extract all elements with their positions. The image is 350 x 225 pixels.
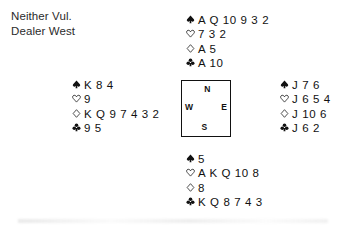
hand-south-diamonds: 8 [198, 181, 205, 196]
hand-north-hearts-row: 7 3 2 [186, 26, 269, 41]
hand-south-spades: 5 [198, 152, 205, 167]
club-icon [280, 120, 292, 133]
heart-icon [72, 91, 84, 104]
spade-icon [186, 150, 198, 163]
hand-east-clubs-row: J 6 2 [280, 120, 331, 135]
spade-icon [186, 11, 198, 24]
heart-icon [186, 165, 198, 178]
hand-north-diamonds-row: A 5 [186, 40, 269, 55]
hand-north: A Q 10 9 3 2 7 3 2 A 5 A 10 [186, 11, 269, 69]
dealer-text: Dealer West [11, 24, 75, 39]
hand-south-clubs: K Q 8 7 4 3 [198, 195, 263, 210]
hand-north-spades-row: A Q 10 9 3 2 [186, 11, 269, 26]
hand-west-diamonds-row: K Q 9 7 4 3 2 [72, 105, 160, 120]
hand-north-clubs-row: A 10 [186, 55, 269, 70]
hand-east-spades-row: J 7 6 [280, 76, 331, 91]
hand-south-spades-row: 5 [186, 150, 263, 165]
hand-south-hearts-row: A K Q 10 8 [186, 165, 263, 180]
diamond-icon [186, 40, 198, 53]
hand-north-spades: A Q 10 9 3 2 [198, 13, 269, 28]
hand-west-spades-row: K 8 4 [72, 76, 160, 91]
hand-east-diamonds: J 10 6 [292, 107, 327, 122]
hand-west-diamonds: K Q 9 7 4 3 2 [84, 107, 160, 122]
scan-artifact [18, 219, 328, 223]
diamond-icon [186, 179, 198, 192]
hand-south-hearts: A K Q 10 8 [198, 166, 260, 181]
hand-west-clubs: 9 5 [84, 121, 102, 136]
compass-east-label: E [221, 103, 227, 112]
hand-west-spades: K 8 4 [84, 78, 114, 93]
hand-west-hearts-row: 9 [72, 91, 160, 106]
hand-south-clubs-row: K Q 8 7 4 3 [186, 194, 263, 209]
compass-west-label: W [185, 103, 193, 112]
deal-info: Neither Vul. Dealer West [11, 9, 75, 39]
hand-east-hearts: J 6 5 4 [292, 92, 331, 107]
compass-south-label: S [201, 123, 207, 132]
bridge-hand-diagram: Neither Vul. Dealer West A Q 10 9 3 2 7 … [0, 0, 350, 225]
hand-south-diamonds-row: 8 [186, 179, 263, 194]
club-icon [72, 120, 84, 133]
spade-icon [72, 76, 84, 89]
diamond-icon [72, 105, 84, 118]
heart-icon [280, 91, 292, 104]
hand-south: 5 A K Q 10 8 8 K Q 8 7 4 3 [186, 150, 263, 208]
hand-west-hearts: 9 [84, 92, 91, 107]
hand-north-clubs: A 10 [198, 56, 223, 71]
vulnerability-text: Neither Vul. [11, 9, 75, 24]
club-icon [186, 194, 198, 207]
club-icon [186, 55, 198, 68]
diamond-icon [280, 105, 292, 118]
hand-east-hearts-row: J 6 5 4 [280, 91, 331, 106]
hand-east: J 7 6 J 6 5 4 J 10 6 J 6 2 [280, 76, 331, 134]
hand-east-spades: J 7 6 [292, 78, 320, 93]
hand-west-clubs-row: 9 5 [72, 120, 160, 135]
hand-west: K 8 4 9 K Q 9 7 4 3 2 9 5 [72, 76, 160, 134]
compass-north-label: N [204, 85, 210, 94]
hand-east-clubs: J 6 2 [292, 121, 320, 136]
spade-icon [280, 76, 292, 89]
hand-north-diamonds: A 5 [198, 42, 216, 57]
hand-north-hearts: 7 3 2 [198, 27, 227, 42]
hand-east-diamonds-row: J 10 6 [280, 105, 331, 120]
heart-icon [186, 26, 198, 39]
compass-box: N W E S [181, 80, 231, 137]
